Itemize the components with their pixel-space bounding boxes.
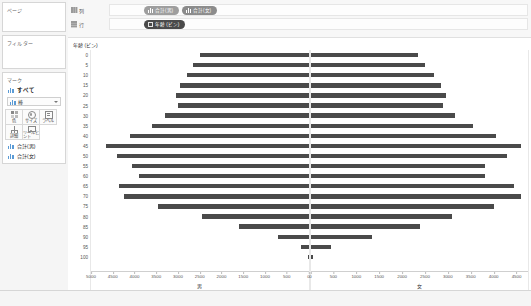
marks-label-label: ラベル [42,119,54,123]
bar-row [311,255,529,259]
bar-row [311,184,529,188]
bar[interactable] [187,73,309,77]
bar[interactable] [311,235,373,239]
bar[interactable] [158,204,308,208]
bar[interactable] [139,174,309,178]
columns-shelf-drop[interactable]: 合計(男) 合計(女) [109,4,528,16]
status-bar [0,290,531,306]
x-axis-title-male: 男 [91,282,309,289]
x-tick: 1500 [374,274,384,279]
bar[interactable] [311,103,444,107]
bar[interactable] [311,164,485,168]
bar[interactable] [311,134,496,138]
bar-row [91,103,309,107]
filters-card[interactable]: フィルター [2,35,66,69]
y-tick: 100 [80,254,88,259]
bar[interactable] [202,214,309,218]
bar[interactable] [130,134,308,138]
y-tick: 60 [83,174,88,179]
marks-label-button[interactable]: ラベル [39,109,57,125]
bar-row [91,93,309,97]
marks-size-button[interactable]: サイズ [22,109,40,125]
bar[interactable] [311,184,515,188]
bar[interactable] [311,224,421,228]
bar-row [311,194,529,198]
marks-field-female[interactable]: 合計(女) [3,149,65,159]
bar[interactable] [239,224,309,228]
size-circle-icon [28,111,35,118]
bar-row [91,73,309,77]
bar[interactable] [311,245,332,249]
marks-all-row[interactable]: すべて [3,85,65,97]
mark-type-dropdown[interactable]: 棒 [7,97,61,106]
x-tick: 4000 [130,274,140,279]
bar[interactable] [311,93,446,97]
label-box-icon [45,111,52,118]
bar-row [91,184,309,188]
bar[interactable] [178,103,309,107]
bar[interactable] [311,144,522,148]
bar[interactable] [311,73,435,77]
bar-chart-icon [8,87,14,93]
y-axis[interactable]: 0510152025303540455055606570758085909510… [68,50,90,290]
bar[interactable] [180,83,308,87]
y-tick: 35 [83,123,88,128]
bar[interactable] [311,124,474,128]
bar[interactable] [308,255,309,259]
shelf-area: 列 合計(男) 合計(女) 行 [68,0,531,38]
bar[interactable] [311,194,522,198]
columns-shelf-row: 列 合計(男) 合計(女) [68,3,531,17]
pill-sum-male[interactable]: 合計(男) [144,6,179,15]
bar-row [91,255,309,259]
bar-row [311,93,529,97]
bar[interactable] [311,174,485,178]
bar[interactable] [132,164,308,168]
bar[interactable] [311,83,442,87]
x-tick: 2000 [397,274,407,279]
bar-row [311,144,529,148]
bar[interactable] [311,255,314,259]
pill-sum-female[interactable]: 合計(女) [182,6,217,15]
mark-type-label: 棒 [18,98,23,105]
marks-field-male[interactable]: 合計(男) [3,139,65,149]
left-panel: ページ フィルター マーク すべて 棒 色 [0,0,68,290]
bar-row [91,194,309,198]
marks-color-button[interactable]: 色 [5,109,23,125]
detail-hierarchy-icon [11,126,18,133]
bar-row [91,214,309,218]
marks-detail-button[interactable]: 詳細 [5,124,23,140]
x-tick: 3000 [173,274,183,279]
bar[interactable] [311,113,455,117]
bar[interactable] [301,245,309,249]
chart-panels: 0500100015002000250030003500400045005000… [90,50,529,290]
bar[interactable] [176,93,309,97]
marks-tooltip-button[interactable]: ツールヒント [22,124,40,140]
bar[interactable] [106,144,308,148]
bar[interactable] [193,63,308,67]
bar[interactable] [311,154,508,158]
marks-detail-label: 詳細 [10,134,18,138]
y-tick: 50 [83,154,88,159]
bar-row [311,174,529,178]
bar[interactable] [165,113,309,117]
bar[interactable] [124,194,309,198]
bar[interactable] [119,184,308,188]
marks-card: マーク すべて 棒 色 サイズ [2,72,66,164]
tableau-worksheet: ページ フィルター マーク すべて 棒 色 [0,0,531,306]
rows-shelf-drop[interactable]: 年齢 (ビン) [109,18,528,30]
bar-row [91,224,309,228]
bar[interactable] [311,204,494,208]
bar[interactable] [200,53,309,57]
bar[interactable] [152,124,309,128]
bar[interactable] [278,235,308,239]
bar[interactable] [117,154,308,158]
bar[interactable] [311,214,453,218]
bar-row [311,134,529,138]
marks-buttons-grid: 色 サイズ ラベル 詳細 ツールヒント [6,109,62,139]
columns-shelf-label: 列 [79,7,84,14]
bar-row [91,124,309,128]
bar[interactable] [311,53,419,57]
pill-age-bin[interactable]: 年齢 (ビン) [144,20,185,29]
filters-card-title: フィルター [3,36,65,48]
bar[interactable] [311,63,425,67]
